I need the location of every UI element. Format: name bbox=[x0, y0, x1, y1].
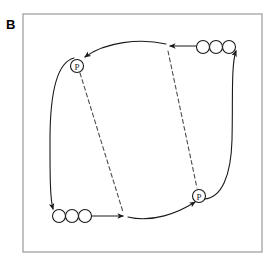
p-marker-top-left: P bbox=[71, 60, 84, 73]
path-top-curve-to-p-top-left bbox=[85, 41, 166, 57]
p-marker-label: P bbox=[196, 192, 201, 202]
path-right-curve-up-to-circle-chain bbox=[204, 51, 236, 199]
path-dashed-top-to-p-bottom-right bbox=[168, 51, 197, 188]
path-bottom-curve-to-p-bottom-right bbox=[128, 202, 195, 219]
circle-node-2 bbox=[210, 41, 223, 54]
figure-panel-b: PP B bbox=[0, 0, 276, 268]
p-markers-layer: PP bbox=[71, 60, 206, 203]
path-left-curve-down-to-circle-chain bbox=[50, 58, 74, 209]
circle-node-1 bbox=[197, 41, 210, 54]
diagram-canvas: PP B bbox=[0, 0, 276, 268]
circle-node-1 bbox=[53, 210, 66, 223]
circle-node-3 bbox=[223, 41, 236, 54]
circle-node-2 bbox=[66, 210, 79, 223]
circle-chain-top-right bbox=[197, 41, 236, 54]
circle-node-3 bbox=[79, 210, 92, 223]
path-dashed-p-top-left-to-bottom bbox=[80, 73, 123, 212]
circle-chain-bottom-left bbox=[53, 210, 92, 223]
p-marker-bottom-right: P bbox=[193, 190, 206, 203]
panel-label: B bbox=[6, 17, 15, 32]
p-marker-label: P bbox=[74, 62, 79, 72]
